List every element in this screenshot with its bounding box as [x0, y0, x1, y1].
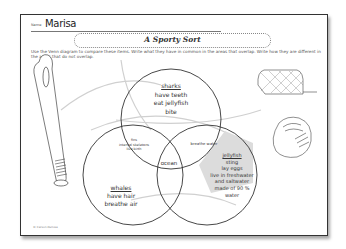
overlap-item: breathe water — [179, 142, 229, 147]
baseball-bat-icon — [34, 55, 68, 186]
left-circle-item: have hair — [86, 192, 156, 200]
top-circle-item: have teeth — [131, 91, 211, 100]
left-circle-heading: whales — [86, 184, 156, 192]
right-circle-item: water — [199, 192, 265, 199]
top-circle-text: sharks have teeth eat jellyfish bite — [131, 82, 211, 116]
venn-diagram-art — [21, 15, 327, 235]
copyright: © Carson-Dellosa — [33, 225, 58, 229]
worksheet: Name Marisa A Sporty Sort Use the Venn d… — [20, 14, 328, 236]
overlap-item: ocean — [149, 160, 189, 166]
overlap-item: live birth — [109, 147, 159, 152]
top-circle-item: eat jellyfish — [131, 99, 211, 108]
right-circle-item: live in freshwater — [199, 172, 265, 179]
right-circle-text: jellyfish sting lay eggs live in freshwa… — [199, 152, 265, 198]
soccer-goal-icon — [258, 70, 317, 94]
right-circle-heading: jellyfish — [199, 152, 265, 159]
right-circle-item: and saltwater — [199, 178, 265, 185]
right-circle-item: made of 90 % — [199, 185, 265, 192]
top-circle-item: bite — [131, 108, 211, 117]
overlap-top-right: breathe water — [179, 142, 229, 147]
overlap-top-left: fins internal skeletons live birth — [109, 138, 159, 152]
left-circle-item: breathe air — [86, 200, 156, 208]
baseball-glove-icon — [273, 117, 311, 157]
right-circle-item: lay eggs — [199, 165, 265, 172]
left-circle-text: whales have hair breathe air — [86, 184, 156, 208]
overlap-center: ocean — [149, 160, 189, 166]
right-circle-item: sting — [199, 159, 265, 166]
top-circle-heading: sharks — [131, 82, 211, 91]
